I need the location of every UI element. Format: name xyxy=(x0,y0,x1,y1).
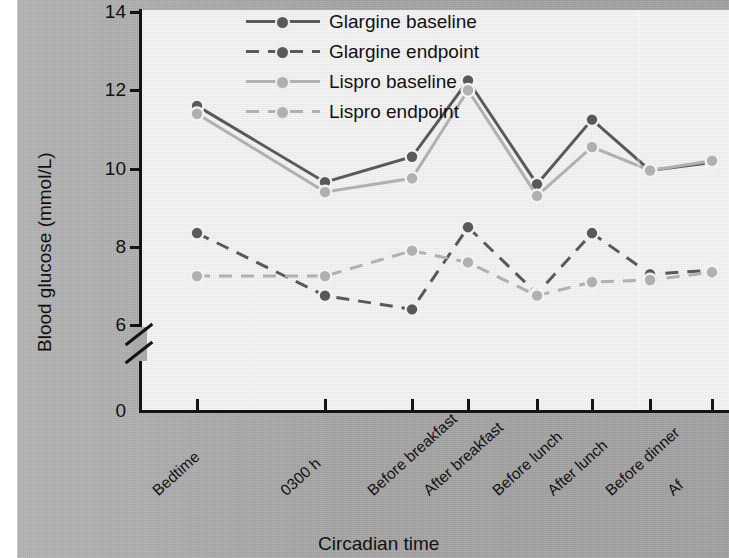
x-tick-4 xyxy=(536,399,539,411)
data-point xyxy=(192,109,202,119)
x-tick-6 xyxy=(649,399,652,411)
series-glargine-endpoint xyxy=(190,220,720,317)
data-point xyxy=(407,173,417,183)
y-tick-label-10: 10 xyxy=(60,159,126,178)
series-line xyxy=(197,251,712,296)
data-point xyxy=(320,271,330,281)
data-point xyxy=(320,290,330,300)
legend-item-lispro-endpoint: Lispro endpoint xyxy=(246,96,479,126)
data-point xyxy=(707,267,717,277)
data-point xyxy=(587,114,597,124)
legend-swatch xyxy=(246,74,320,88)
data-point xyxy=(587,228,597,238)
data-point xyxy=(532,191,542,201)
data-point xyxy=(192,228,202,238)
series-line xyxy=(197,227,712,309)
legend-label: Glargine endpoint xyxy=(329,42,479,61)
x-tick-5 xyxy=(591,399,594,411)
legend-label: Lispro baseline xyxy=(329,72,457,91)
figure: 068101214 Bedtime0300 hBefore breakfastA… xyxy=(0,0,729,558)
y-axis-title: Blood glucose (mmol/L) xyxy=(34,152,56,352)
data-point xyxy=(320,187,330,197)
data-point xyxy=(707,155,717,165)
data-point xyxy=(407,152,417,162)
x-axis-line xyxy=(139,410,729,413)
y-tick-10 xyxy=(130,168,141,171)
data-point xyxy=(407,245,417,255)
scan-seam xyxy=(637,10,640,412)
x-axis-title: Circadian time xyxy=(318,533,439,555)
legend-item-glargine-baseline: Glargine baseline xyxy=(246,6,479,36)
y-tick-label-8: 8 xyxy=(60,237,126,256)
data-point xyxy=(407,304,417,314)
series-lispro-endpoint xyxy=(190,243,720,303)
x-tick-7 xyxy=(711,399,714,411)
legend-marker-icon xyxy=(277,47,288,58)
data-point xyxy=(463,222,473,232)
y-tick-12 xyxy=(130,89,141,92)
data-point xyxy=(192,271,202,281)
y-tick-label-6: 6 xyxy=(60,315,126,334)
data-point xyxy=(645,165,655,175)
x-tick-1 xyxy=(324,399,327,411)
page-margin xyxy=(0,0,18,558)
data-point xyxy=(463,257,473,267)
x-tick-2 xyxy=(411,399,414,411)
data-point xyxy=(645,275,655,285)
legend-swatch xyxy=(246,44,320,58)
y-tick-label-0: 0 xyxy=(60,401,126,420)
legend-marker-icon xyxy=(277,77,288,88)
data-point xyxy=(532,290,542,300)
legend-swatch xyxy=(246,14,320,28)
y-tick-label-14: 14 xyxy=(60,2,126,21)
legend-item-glargine-endpoint: Glargine endpoint xyxy=(246,36,479,66)
legend-item-lispro-baseline: Lispro baseline xyxy=(246,66,479,96)
y-tick-8 xyxy=(130,246,141,249)
x-tick-3 xyxy=(467,399,470,411)
y-tick-14 xyxy=(130,11,141,14)
y-tick-label-12: 12 xyxy=(60,80,126,99)
legend: Glargine baselineGlargine endpointLispro… xyxy=(246,6,479,126)
legend-label: Lispro endpoint xyxy=(329,102,459,121)
data-point xyxy=(587,142,597,152)
data-point xyxy=(587,277,597,287)
page-edge xyxy=(17,0,19,558)
legend-marker-icon xyxy=(277,107,288,118)
legend-label: Glargine baseline xyxy=(329,12,477,31)
legend-marker-icon xyxy=(277,17,288,28)
legend-swatch xyxy=(246,104,320,118)
x-tick-0 xyxy=(196,399,199,411)
